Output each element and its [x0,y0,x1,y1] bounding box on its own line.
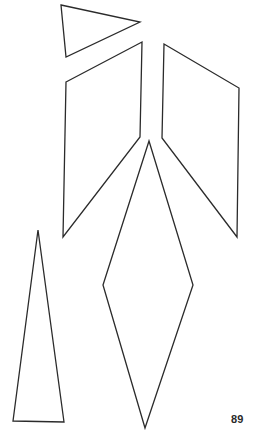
left-parallelogram-shape [63,42,142,237]
right-parallelogram-shape [162,44,239,237]
tall-diamond-shape [103,141,193,428]
page-number: 89 [231,413,244,425]
tall-triangle-shape [13,230,64,422]
shapes-figure [0,0,259,437]
document-page: 89 [0,0,259,437]
